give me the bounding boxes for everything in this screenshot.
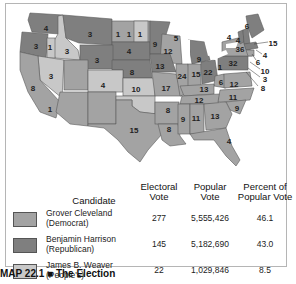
state-electoral-label: 15 xyxy=(130,126,139,135)
state-electoral-label: 9 xyxy=(235,104,240,113)
state-electoral-label: 36 xyxy=(236,45,245,54)
candidate-party: (Republican) xyxy=(46,244,116,254)
us-electoral-map: 4313311134951238813941017241522132364461… xyxy=(0,0,289,180)
state-electoral-label: 24 xyxy=(178,72,187,81)
state-electoral-label: 9 xyxy=(197,55,202,64)
popular-vote: 5,555,426 xyxy=(180,213,240,223)
candidate-name: Benjamin Harrison xyxy=(46,234,116,244)
state-ky xyxy=(180,84,214,96)
state-az xyxy=(56,92,88,126)
lake-superior xyxy=(170,22,204,34)
table-row: Grover Cleveland (Democrat) 277 5,555,42… xyxy=(10,208,282,234)
state-electoral-label: 1 xyxy=(116,30,121,39)
state-electoral-label: 6 xyxy=(256,58,261,67)
electoral-vote: 145 xyxy=(134,239,184,249)
state-electoral-label: 13 xyxy=(211,112,220,121)
state-electoral-label: 3 xyxy=(65,47,70,56)
state-electoral-label: 8 xyxy=(167,125,172,134)
state-nm xyxy=(88,92,116,124)
header-electoral: Electoral Vote xyxy=(134,182,184,202)
state-electoral-label: 1 xyxy=(138,30,143,39)
state-electoral-label: 8 xyxy=(130,68,135,77)
state-electoral-label: 12 xyxy=(195,96,204,105)
state-electoral-label: 1 xyxy=(48,105,53,114)
state-electoral-label: 8 xyxy=(261,84,266,93)
candidate-cell: Grover Cleveland (Democrat) xyxy=(46,208,112,228)
state-electoral-label: 4 xyxy=(263,51,268,60)
state-electoral-label: 3 xyxy=(49,72,54,81)
popular-vote: 1,029,846 xyxy=(180,265,240,275)
state-electoral-label: 11 xyxy=(229,93,238,102)
state-co xyxy=(88,70,123,92)
state-electoral-label: 3 xyxy=(88,30,93,39)
percent-vote: 46.1 xyxy=(234,213,296,223)
state-electoral-label: 6 xyxy=(219,78,224,87)
state-electoral-label: 11 xyxy=(192,114,201,123)
state-electoral-label: 13 xyxy=(200,85,209,94)
state-electoral-label: 12 xyxy=(164,47,173,56)
state-electoral-label: 3 xyxy=(263,75,268,84)
state-fl xyxy=(190,128,240,166)
state-electoral-label: 8 xyxy=(166,106,171,115)
lake-michigan xyxy=(184,40,190,62)
state-electoral-label: 12 xyxy=(230,80,239,89)
state-electoral-label: 10 xyxy=(132,85,141,94)
state-electoral-label: 8 xyxy=(31,84,36,93)
header-candidate: Candidate xyxy=(46,196,142,206)
state-electoral-label: 1 xyxy=(127,30,132,39)
state-electoral-label: 5 xyxy=(174,34,179,43)
candidate-name: Grover Cleveland xyxy=(46,208,112,218)
state-electoral-label: 17 xyxy=(162,84,171,93)
state-electoral-label: 15 xyxy=(192,70,201,79)
republican-swatch xyxy=(13,238,37,253)
state-electoral-label: 15 xyxy=(269,39,278,48)
state-electoral-label: 1 xyxy=(218,63,223,72)
state-electoral-label: 3 xyxy=(34,42,39,51)
state-electoral-label: 1 xyxy=(48,43,53,52)
electoral-vote: 22 xyxy=(134,265,184,275)
state-electoral-label: 4 xyxy=(127,47,132,56)
header-electoral-line2: Vote xyxy=(134,192,184,202)
state-electoral-label: 4 xyxy=(236,36,241,45)
state-electoral-label: 32 xyxy=(229,59,238,68)
popular-vote: 5,182,690 xyxy=(180,239,240,249)
democrat-swatch xyxy=(13,212,37,227)
header-percent-line2: Popular Vote xyxy=(234,192,296,202)
percent-vote: 8.5 xyxy=(234,265,296,275)
state-electoral-label: 4 xyxy=(227,33,232,42)
candidate-cell: Benjamin Harrison (Republican) xyxy=(46,234,116,254)
state-electoral-label: 9 xyxy=(153,40,158,49)
state-ut xyxy=(64,60,88,90)
state-electoral-label: 13 xyxy=(156,62,165,71)
state-electoral-label: 4 xyxy=(44,24,49,33)
electoral-vote: 277 xyxy=(134,213,184,223)
header-popular-line2: Vote xyxy=(180,192,240,202)
state-electoral-label: 6 xyxy=(245,22,250,31)
map-caption: MAP 22.1 ■ The Election xyxy=(0,268,115,279)
header-popular: Popular Vote xyxy=(180,182,240,202)
state-electoral-label: 9 xyxy=(181,115,186,124)
header-percent: Percent of Popular Vote xyxy=(234,182,296,202)
candidate-party: (Democrat) xyxy=(46,218,112,228)
state-electoral-label: 22 xyxy=(204,68,213,77)
state-electoral-label: 3 xyxy=(95,56,100,65)
state-electoral-label: 4 xyxy=(227,137,232,146)
table-row: Benjamin Harrison (Republican) 145 5,182… xyxy=(10,234,282,260)
percent-vote: 43.0 xyxy=(234,239,296,249)
state-electoral-label: 4 xyxy=(101,81,106,90)
